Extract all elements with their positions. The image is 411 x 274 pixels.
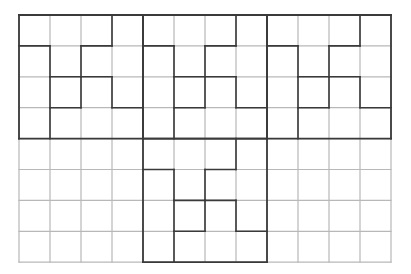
grid-cell[interactable] xyxy=(112,200,143,231)
grid-cell[interactable] xyxy=(267,108,298,139)
grid-cell[interactable] xyxy=(236,15,267,46)
grid-cell[interactable] xyxy=(329,231,360,262)
grid-cell[interactable] xyxy=(236,46,267,77)
grid-cell[interactable] xyxy=(329,200,360,231)
grid-cell[interactable] xyxy=(81,108,112,139)
grid-cell[interactable] xyxy=(50,139,81,170)
grid-cell[interactable] xyxy=(174,77,205,108)
grid-cell[interactable] xyxy=(50,170,81,201)
grid-cell[interactable] xyxy=(174,200,205,231)
grid-cell[interactable] xyxy=(50,231,81,262)
grid-cell[interactable] xyxy=(236,200,267,231)
grid-cell[interactable] xyxy=(174,170,205,201)
grid-cell[interactable] xyxy=(174,108,205,139)
grid-cell[interactable] xyxy=(236,77,267,108)
grid-cell[interactable] xyxy=(329,77,360,108)
grid-cell[interactable] xyxy=(19,77,50,108)
grid-cell[interactable] xyxy=(19,139,50,170)
grid-cell[interactable] xyxy=(112,139,143,170)
grid-cell[interactable] xyxy=(81,77,112,108)
grid-cell[interactable] xyxy=(174,139,205,170)
grid-cell[interactable] xyxy=(19,200,50,231)
grid-cell[interactable] xyxy=(143,108,174,139)
grid-cell[interactable] xyxy=(143,231,174,262)
grid-cell[interactable] xyxy=(143,139,174,170)
grid-cell[interactable] xyxy=(329,108,360,139)
grid-cell[interactable] xyxy=(19,170,50,201)
grid-cell[interactable] xyxy=(298,139,329,170)
grid-cell[interactable] xyxy=(174,15,205,46)
grid-cell[interactable] xyxy=(236,170,267,201)
grid-cell[interactable] xyxy=(112,170,143,201)
grid-cell[interactable] xyxy=(329,170,360,201)
grid-cell[interactable] xyxy=(143,46,174,77)
grid-cell[interactable] xyxy=(360,231,391,262)
grid-cell[interactable] xyxy=(267,15,298,46)
grid-cell[interactable] xyxy=(205,77,236,108)
grid-cell[interactable] xyxy=(143,200,174,231)
grid-cell[interactable] xyxy=(267,231,298,262)
grid-cell[interactable] xyxy=(112,46,143,77)
grid-cell[interactable] xyxy=(360,139,391,170)
grid-cell[interactable] xyxy=(81,170,112,201)
grid-cell[interactable] xyxy=(50,15,81,46)
grid-cell[interactable] xyxy=(81,231,112,262)
grid-cell[interactable] xyxy=(81,46,112,77)
grid-cell[interactable] xyxy=(174,46,205,77)
grid-cell[interactable] xyxy=(112,108,143,139)
grid-cell[interactable] xyxy=(267,139,298,170)
grid-cell[interactable] xyxy=(205,139,236,170)
grid-cells xyxy=(19,15,391,262)
grid-cell[interactable] xyxy=(50,200,81,231)
grid-cell[interactable] xyxy=(205,200,236,231)
grid-cell[interactable] xyxy=(205,170,236,201)
grid-cell[interactable] xyxy=(267,46,298,77)
grid-cell[interactable] xyxy=(143,77,174,108)
grid-cell[interactable] xyxy=(143,15,174,46)
grid-cell[interactable] xyxy=(267,77,298,108)
grid-cell[interactable] xyxy=(143,170,174,201)
grid-cell[interactable] xyxy=(205,108,236,139)
grid-cell[interactable] xyxy=(298,108,329,139)
grid-cell[interactable] xyxy=(360,108,391,139)
grid-cell[interactable] xyxy=(50,77,81,108)
grid-cell[interactable] xyxy=(360,200,391,231)
grid-cell[interactable] xyxy=(298,46,329,77)
grid-cell[interactable] xyxy=(298,77,329,108)
grid-cell[interactable] xyxy=(329,46,360,77)
grid-cell[interactable] xyxy=(360,170,391,201)
grid-cell[interactable] xyxy=(19,231,50,262)
grid-cell[interactable] xyxy=(267,170,298,201)
grid-cell[interactable] xyxy=(298,231,329,262)
grid-cell[interactable] xyxy=(298,170,329,201)
grid-cell[interactable] xyxy=(298,200,329,231)
grid-cell[interactable] xyxy=(236,108,267,139)
grid-cell[interactable] xyxy=(329,139,360,170)
grid-cell[interactable] xyxy=(329,15,360,46)
grid-cell[interactable] xyxy=(360,77,391,108)
grid-cell[interactable] xyxy=(174,231,205,262)
grid-cell[interactable] xyxy=(81,15,112,46)
grid-cell[interactable] xyxy=(360,46,391,77)
grid-cell[interactable] xyxy=(50,108,81,139)
grid-cell[interactable] xyxy=(205,231,236,262)
grid-cell[interactable] xyxy=(81,139,112,170)
grid-cell[interactable] xyxy=(19,46,50,77)
grid-cell[interactable] xyxy=(236,231,267,262)
grid-cell[interactable] xyxy=(298,15,329,46)
grid-cell[interactable] xyxy=(19,108,50,139)
grid-cell[interactable] xyxy=(50,46,81,77)
grid-cell[interactable] xyxy=(205,15,236,46)
grid-cell[interactable] xyxy=(112,15,143,46)
grid-cell[interactable] xyxy=(112,231,143,262)
grid-cell[interactable] xyxy=(236,139,267,170)
grid-cell[interactable] xyxy=(360,15,391,46)
grid-cell[interactable] xyxy=(267,200,298,231)
grid-cell[interactable] xyxy=(19,15,50,46)
grid-cell[interactable] xyxy=(205,46,236,77)
puzzle-grid xyxy=(0,0,411,274)
grid-cell[interactable] xyxy=(81,200,112,231)
grid-cell[interactable] xyxy=(112,77,143,108)
